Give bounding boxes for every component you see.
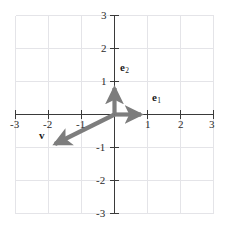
coordinate-plane-svg [0,0,226,231]
y-tick-label-1: 1 [101,76,107,87]
y-tick-label-neg1: -1 [96,142,105,153]
x-tick-label-1: 1 [145,119,151,130]
vector-diagram-figure: -3 -2 -1 1 2 3 3 2 1 -1 -2 -3 e1 e2 v [0,0,226,231]
vector-label-e1-subscript: 1 [157,96,161,105]
vector-label-v: v [39,130,45,141]
x-tick-label-neg3: -3 [10,119,19,130]
y-tick-label-neg2: -2 [96,175,105,186]
x-tick-label-neg1: -1 [76,119,85,130]
x-tick-label-2: 2 [178,119,184,130]
y-tick-label-neg3: -3 [96,208,105,219]
vector-label-e2: e2 [120,62,129,73]
vector-label-e2-subscript: 2 [125,66,129,75]
vector-arrows [55,88,141,144]
x-tick-label-3: 3 [209,119,215,130]
y-tick-label-3: 3 [101,10,107,21]
vector-label-v-base: v [39,129,45,141]
y-tick-label-2: 2 [101,43,107,54]
vector-label-e1: e1 [152,92,161,103]
